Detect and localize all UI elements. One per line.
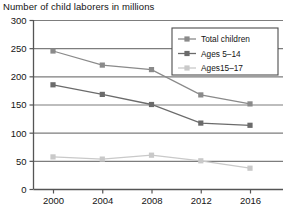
y-axis-tick-labels: 050100150200250300 [11,15,27,195]
y-axis-tick-label: 300 [11,15,27,26]
series-marker [247,123,252,128]
x-axis-tick-labels: 20002004200820122016 [43,195,261,206]
series-marker [149,153,154,158]
series-marker [247,166,252,171]
y-axis-tick-label: 200 [11,71,27,82]
y-axis-tick-label: 150 [11,99,27,110]
series-marker [198,121,203,126]
y-axis-tick-label: 100 [11,128,27,139]
legend-item-label: Ages15–17 [201,63,243,73]
x-axis-tick-label: 2004 [92,195,113,206]
legend-swatch-marker [184,51,189,56]
series-marker [100,63,105,68]
series-marker [149,67,154,72]
series-marker [198,158,203,163]
series-marker [50,154,55,159]
y-axis-tick-label: 0 [21,184,26,195]
series-marker [149,102,154,107]
series-marker [100,157,105,162]
legend-swatch-marker [184,65,189,70]
chart-container: Number of child laborers in millions 050… [0,0,288,206]
series-marker [198,92,203,97]
legend-item-label: Total children [201,34,250,44]
series-marker [100,92,105,97]
x-axis-tick-label: 2016 [240,195,261,206]
x-axis-tick-label: 2000 [43,195,64,206]
x-axis-tick-label: 2012 [191,195,212,206]
y-axis-tick-label: 50 [16,156,27,167]
legend-swatch-marker [184,36,189,41]
x-axis-tick-label: 2008 [141,195,162,206]
line-chart: 050100150200250300 20002004200820122016 … [0,0,288,206]
y-axis-tick-label: 250 [11,43,27,54]
series-marker [247,101,252,106]
legend-item-label: Ages 5–14 [201,49,241,59]
series-marker [50,82,55,87]
series-marker [50,48,55,53]
chart-legend: Total childrenAges 5–14Ages15–17 [172,28,278,75]
